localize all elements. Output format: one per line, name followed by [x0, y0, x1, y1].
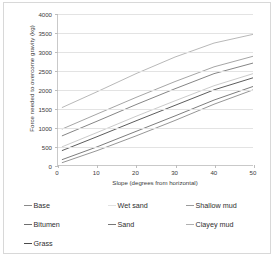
- y-tick-label: 3000: [16, 49, 52, 56]
- x-tick-mark: [215, 165, 216, 168]
- gridline: [58, 14, 253, 15]
- legend-swatch-icon: [24, 243, 32, 244]
- gridline: [58, 52, 253, 53]
- y-tick-label: 2000: [16, 87, 52, 94]
- y-tick-label: 1500: [16, 106, 52, 113]
- y-tick-label: 2500: [16, 68, 52, 75]
- x-tick-label: 30: [160, 169, 190, 176]
- legend-label: Wet sand: [118, 202, 148, 209]
- chart-area: Force needed to overcome gravity (kg) 05…: [4, 3, 272, 193]
- y-tick-mark: [55, 90, 58, 91]
- gridline: [58, 33, 253, 34]
- figure-container: Force needed to overcome gravity (kg) 05…: [3, 2, 271, 254]
- legend-swatch-icon: [108, 205, 116, 206]
- legend-label: Bitumen: [34, 221, 60, 228]
- legend-item[interactable]: Wet sand: [108, 202, 148, 209]
- gridline: [58, 147, 253, 148]
- x-axis-tick-labels: 01020304050: [57, 169, 253, 179]
- series-line: [62, 90, 253, 163]
- series-line: [62, 63, 253, 136]
- y-tick-mark: [55, 71, 58, 72]
- legend-label: Clayey mud: [196, 221, 234, 228]
- x-tick-mark: [97, 165, 98, 168]
- x-tick-label: 50: [238, 169, 268, 176]
- y-tick-mark: [55, 14, 58, 15]
- x-tick-label: 0: [42, 169, 72, 176]
- legend-swatch-icon: [108, 224, 116, 225]
- legend-item[interactable]: Grass: [24, 240, 53, 247]
- gridline: [58, 128, 253, 129]
- x-tick-mark: [136, 165, 137, 168]
- legend-label: Sand: [118, 221, 135, 228]
- y-tick-mark: [55, 33, 58, 34]
- y-tick-label: 3500: [16, 30, 52, 37]
- x-tick-label: 40: [199, 169, 229, 176]
- legend-item[interactable]: Base: [24, 202, 50, 209]
- legend-label: Shallow mud: [196, 202, 237, 209]
- x-tick-mark: [58, 165, 59, 168]
- x-axis-title: Slope (degrees from horizontal): [57, 179, 253, 186]
- series-line: [62, 86, 253, 159]
- x-tick-label: 20: [120, 169, 150, 176]
- x-tick-label: 10: [81, 169, 111, 176]
- x-tick-mark: [176, 165, 177, 168]
- legend-swatch-icon: [186, 205, 194, 206]
- gridline: [58, 90, 253, 91]
- legend-swatch-icon: [186, 224, 194, 225]
- gridline: [58, 109, 253, 110]
- legend-label: Base: [34, 202, 50, 209]
- y-tick-mark: [55, 109, 58, 110]
- plot-region: [57, 14, 253, 166]
- legend-item[interactable]: Bitumen: [24, 221, 60, 228]
- y-tick-mark: [55, 147, 58, 148]
- legend-swatch-icon: [24, 224, 32, 225]
- legend-item[interactable]: Sand: [108, 221, 134, 228]
- y-tick-label: 500: [16, 144, 52, 151]
- legend-item[interactable]: Shallow mud: [186, 202, 237, 209]
- series-line: [62, 56, 253, 129]
- chart-legend: BaseWet sandShallow mudBitumenSandClayey…: [24, 202, 272, 252]
- y-tick-label: 1000: [16, 125, 52, 132]
- series-line: [62, 74, 253, 147]
- gridline: [58, 71, 253, 72]
- y-tick-label: 4000: [16, 11, 52, 18]
- y-tick-mark: [55, 128, 58, 129]
- y-axis-tick-labels: 05001000150020002500300035004000: [16, 14, 52, 166]
- legend-label: Grass: [34, 240, 53, 247]
- legend-item[interactable]: Clayey mud: [186, 221, 233, 228]
- legend-swatch-icon: [24, 205, 32, 206]
- y-tick-mark: [55, 52, 58, 53]
- x-tick-mark: [254, 165, 255, 168]
